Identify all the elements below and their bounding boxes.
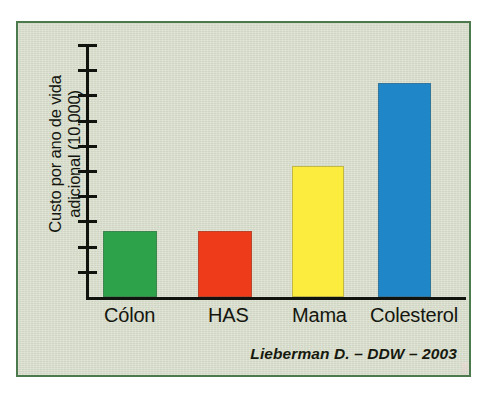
bar-mama xyxy=(292,166,344,297)
x-axis-label-mama: Mama xyxy=(292,304,347,327)
chart-panel: Custo por ano de vida adicional (10.000)… xyxy=(16,21,471,377)
scan-edge-artifact xyxy=(462,363,468,377)
source-credit: Lieberman D. – DDW – 2003 xyxy=(250,345,457,363)
x-axis-label-colesterol: Colesterol xyxy=(370,304,458,327)
x-axis-label-cólon: Cólon xyxy=(104,304,155,327)
x-axis-label-has: HAS xyxy=(208,304,249,327)
bar-cólon xyxy=(103,231,157,297)
bars-layer xyxy=(18,23,469,297)
bar-colesterol xyxy=(378,83,431,297)
figure-container: Custo por ano de vida adicional (10.000)… xyxy=(0,0,498,396)
x-axis-line xyxy=(86,297,466,300)
bar-has xyxy=(198,231,252,297)
